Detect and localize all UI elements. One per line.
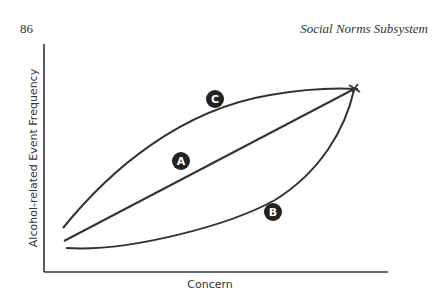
label-c-badge: C (206, 90, 224, 108)
y-axis-label: Alcohol-related Event Frequency (27, 68, 40, 247)
diagram: C A B Alcohol-related Event Frequency Co… (0, 0, 448, 297)
curve-b (66, 90, 354, 248)
label-a: A (177, 155, 186, 168)
label-b-badge: B (264, 203, 282, 221)
label-b: B (269, 206, 277, 219)
curve-a (64, 88, 356, 241)
label-a-badge: A (172, 152, 190, 170)
x-axis-label: Concern (187, 278, 233, 291)
label-c: C (211, 93, 219, 106)
